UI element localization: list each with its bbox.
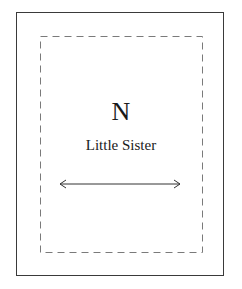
caption-label: Little Sister — [0, 136, 242, 154]
double-arrow-icon — [58, 175, 182, 194]
letter-label: N — [0, 98, 242, 126]
